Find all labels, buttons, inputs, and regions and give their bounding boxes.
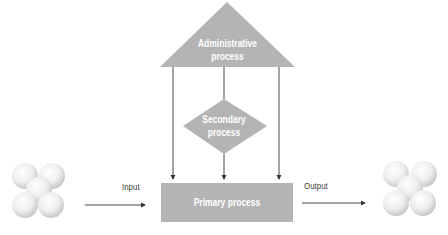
secondary-process-label: Secondary process — [190, 113, 258, 139]
administrative-process-label: Administrative process — [179, 37, 277, 63]
primary-process-label: Primary process — [171, 196, 283, 209]
administrative-label-line1: Administrative — [179, 37, 277, 50]
process-diagram: Administrative process Secondary process… — [0, 0, 448, 235]
output-label: Output — [304, 181, 328, 191]
administrative-label-line2: process — [179, 50, 277, 63]
output-balls-icon — [383, 161, 437, 216]
secondary-label-line2: process — [190, 126, 258, 139]
input-label: Input — [122, 182, 140, 192]
input-balls-icon — [12, 163, 65, 218]
secondary-label-line1: Secondary — [190, 113, 258, 126]
